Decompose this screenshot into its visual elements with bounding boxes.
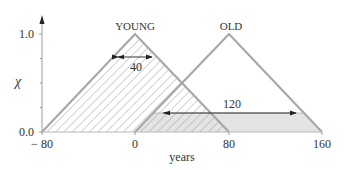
old-label: OLD [220, 20, 243, 32]
chart: 1.0 0.0 χ − 80 0 80 160 years YOUNG OLD … [0, 0, 347, 170]
x-tick-label-1: 0 [132, 137, 138, 151]
y-axis-label: χ [13, 74, 22, 89]
x-axis-label: years [169, 150, 195, 164]
x-tick-label-0: − 80 [31, 137, 53, 151]
old-width-label: 120 [223, 97, 241, 111]
chart-svg: 1.0 0.0 χ − 80 0 80 160 years YOUNG OLD … [0, 0, 347, 170]
young-label: YOUNG [115, 20, 155, 32]
x-tick-label-3: 160 [313, 137, 331, 151]
young-hatched-area [42, 34, 229, 132]
y-tick-label-1: 1.0 [19, 27, 34, 41]
x-tick-label-2: 80 [223, 137, 235, 151]
young-width-label: 40 [130, 60, 142, 74]
y-axis-arrow-icon [40, 15, 45, 24]
